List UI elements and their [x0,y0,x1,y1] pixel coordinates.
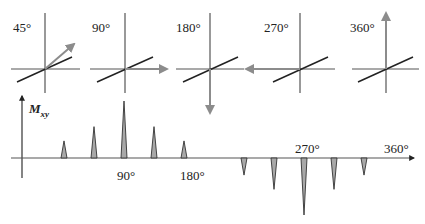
panel-label-270: 270° [264,21,289,34]
signal-plot [11,96,414,215]
magnetization-vector-arrow-icon [45,44,74,69]
y-axis-label-main: M [29,101,41,116]
y-axis-label-subscript: xy [41,109,50,119]
panel-label-45: 45° [13,21,31,34]
signal-peak [91,127,97,158]
panel-label-360: 360° [350,21,375,34]
signal-peak [121,101,127,158]
panel-label-180: 180° [176,21,201,34]
panel-270 [246,13,335,93]
signal-peak [181,141,187,158]
tick-label-90: 90° [117,169,135,182]
signal-peak [241,158,247,175]
signal-peak [361,158,367,175]
signal-peak [61,141,67,158]
tick-label-360: 360° [384,142,409,155]
signal-peak [301,158,307,215]
tick-label-270: 270° [295,142,320,155]
signal-peak [271,158,277,189]
signal-peak [331,158,337,189]
panel-label-90: 90° [92,21,110,34]
tick-label-180: 180° [180,169,205,182]
y-axis-label: Mxy [29,101,49,119]
signal-peak [151,127,157,158]
